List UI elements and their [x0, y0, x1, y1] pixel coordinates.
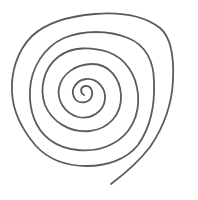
spiral-drawing	[0, 0, 198, 200]
spiral-stroke	[12, 13, 173, 184]
drawing-canvas	[0, 0, 198, 200]
